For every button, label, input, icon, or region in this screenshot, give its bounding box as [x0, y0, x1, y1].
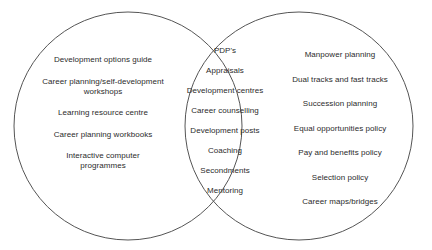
list-item: Coaching [208, 146, 242, 156]
list-item: Dual tracks and fast tracks [292, 75, 388, 85]
list-item: Mentoring [207, 186, 243, 196]
list-item: Pay and benefits policy [298, 148, 381, 158]
list-item: Equal opportunities policy [294, 124, 386, 134]
list-item: PDP's [214, 46, 236, 56]
venn-diagram: Development options guide Career plannin… [0, 0, 432, 250]
list-item: Manpower planning [305, 50, 376, 60]
list-item: Learning resource centre [58, 108, 148, 118]
list-item: Development options guide [54, 55, 152, 65]
list-item: Development centres [187, 86, 264, 96]
list-item: Interactive computer programmes [66, 151, 139, 171]
list-item: Secondments [200, 166, 249, 176]
list-item: Career planning/self-development worksho… [42, 77, 164, 97]
list-item: Career maps/bridges [302, 197, 378, 207]
right-region: Manpower planning Dual tracks and fast t… [254, 50, 426, 222]
list-item: Appraisals [206, 66, 244, 76]
list-item: Development posts [190, 126, 259, 136]
list-item: Selection policy [312, 173, 368, 183]
list-item: Succession planning [303, 99, 377, 109]
list-item: Career counselling [191, 106, 259, 116]
list-item: Career planning workbooks [54, 130, 153, 140]
left-region: Development options guide Career plannin… [22, 55, 184, 183]
